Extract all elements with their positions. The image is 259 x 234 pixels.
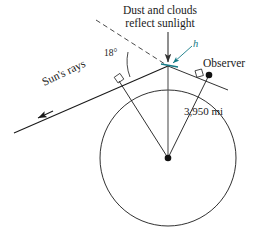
- angle-label: 18°: [104, 48, 117, 59]
- right-angle-mark-observer: [195, 69, 203, 77]
- caption-line-1: Dust and clouds: [123, 4, 197, 16]
- earth-sunlight-diagram: Dust and cloudsreflect sunlight 18° h Ob…: [0, 0, 259, 234]
- caption-line-2: reflect sunlight: [125, 17, 194, 29]
- radius-label: 3,950 mi: [184, 105, 223, 117]
- observer-point-marker: [206, 72, 213, 79]
- height-leader-line: [173, 46, 192, 63]
- earth-center-marker: [165, 155, 172, 162]
- angle-arc: [127, 52, 130, 77]
- radius-left-tangent: [119, 81, 168, 158]
- caption-label: Dust and cloudsreflect sunlight: [92, 4, 228, 30]
- sun-ray-line: [14, 66, 168, 133]
- observer-label: Observer: [203, 57, 245, 70]
- height-label: h: [193, 38, 198, 50]
